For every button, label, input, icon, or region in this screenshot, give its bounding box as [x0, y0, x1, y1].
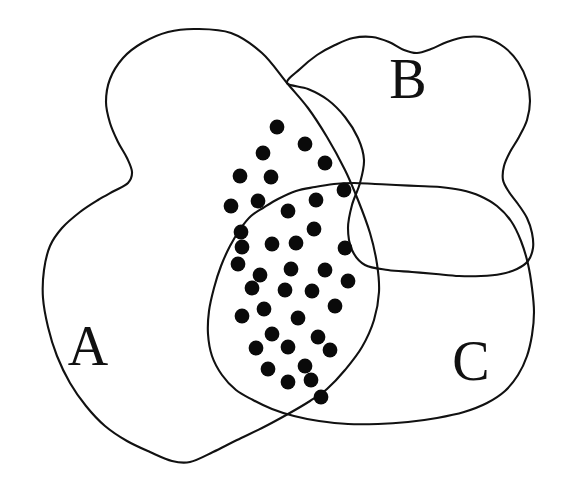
- intersection-dot: [298, 359, 313, 374]
- set-label-b: B: [389, 48, 426, 110]
- intersection-dot: [328, 299, 343, 314]
- intersection-dot: [265, 237, 280, 252]
- intersection-dot: [318, 156, 333, 171]
- intersection-dot: [265, 327, 280, 342]
- intersection-dot: [298, 137, 313, 152]
- intersection-dot: [264, 170, 279, 185]
- intersection-dot: [291, 311, 306, 326]
- intersection-dot: [309, 193, 324, 208]
- intersection-dot: [305, 284, 320, 299]
- intersection-dot: [341, 274, 356, 289]
- intersection-dot: [304, 373, 319, 388]
- intersection-dot: [235, 240, 250, 255]
- intersection-dot: [245, 281, 260, 296]
- intersection-dot: [270, 120, 285, 135]
- set-label-a: A: [68, 315, 109, 377]
- intersection-dot: [234, 225, 249, 240]
- intersection-dot: [338, 241, 353, 256]
- venn-diagram-figure: A B C: [0, 0, 566, 482]
- intersection-dot: [323, 343, 338, 358]
- intersection-dot: [281, 375, 296, 390]
- intersection-dot: [251, 194, 266, 209]
- intersection-dot: [307, 222, 322, 237]
- intersection-dot: [314, 390, 329, 405]
- intersection-dot: [235, 309, 250, 324]
- intersection-dot: [337, 183, 352, 198]
- intersection-dot: [231, 257, 246, 272]
- intersection-dot: [224, 199, 239, 214]
- intersection-dot: [253, 268, 268, 283]
- intersection-dot: [284, 262, 299, 277]
- intersection-dot: [318, 263, 333, 278]
- intersection-dot: [256, 146, 271, 161]
- diagram-background: [0, 0, 566, 482]
- intersection-dot: [289, 236, 304, 251]
- intersection-dot: [278, 283, 293, 298]
- intersection-dot: [281, 340, 296, 355]
- intersection-dot: [257, 302, 272, 317]
- intersection-dot: [233, 169, 248, 184]
- intersection-dot: [261, 362, 276, 377]
- intersection-dot: [311, 330, 326, 345]
- venn-diagram-canvas: A B C: [0, 0, 566, 482]
- intersection-dot: [281, 204, 296, 219]
- intersection-dot: [249, 341, 264, 356]
- set-label-c: C: [452, 330, 489, 392]
